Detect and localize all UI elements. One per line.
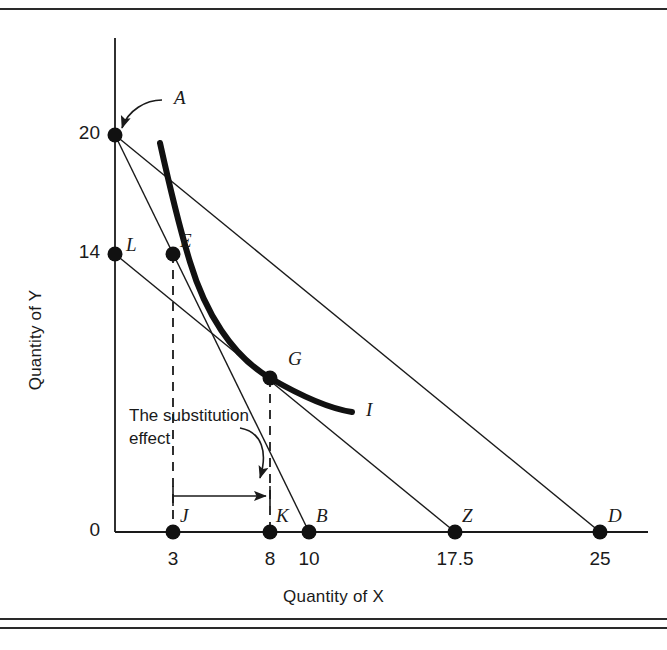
y-tick-0: 0 xyxy=(40,519,100,541)
point-z xyxy=(448,525,463,540)
indifference-curve xyxy=(160,143,352,412)
callout-arrow-a xyxy=(122,100,162,128)
point-b xyxy=(302,525,317,540)
point-e xyxy=(166,247,181,262)
point-l xyxy=(108,247,123,262)
compensated-budget-line-lz xyxy=(115,254,455,532)
budget-line-ad xyxy=(115,135,600,532)
x-tick-25: 25 xyxy=(575,548,625,570)
figure-container: 20 14 0 3 8 10 17.5 25 A L E G I J K B Z… xyxy=(0,0,667,650)
point-g xyxy=(263,371,278,386)
label-point-j: J xyxy=(180,505,188,527)
label-point-z: Z xyxy=(462,505,473,527)
y-tick-14: 14 xyxy=(40,241,100,263)
label-point-k: K xyxy=(276,505,289,527)
label-point-d: D xyxy=(608,505,622,527)
label-curve-i: I xyxy=(366,399,372,421)
x-tick-10: 10 xyxy=(284,548,334,570)
annotation-substitution-effect: The substitution effect xyxy=(129,404,249,450)
label-point-g: G xyxy=(288,348,302,370)
x-tick-3: 3 xyxy=(148,548,198,570)
label-point-b: B xyxy=(316,505,328,527)
label-point-a: A xyxy=(174,87,186,109)
label-point-l: L xyxy=(126,234,137,256)
point-a xyxy=(108,128,123,143)
x-tick-17-5: 17.5 xyxy=(420,548,490,570)
point-j xyxy=(166,525,181,540)
y-tick-20: 20 xyxy=(40,122,100,144)
label-point-e: E xyxy=(180,230,192,252)
y-axis-title: Quantity of Y xyxy=(26,260,46,420)
point-d xyxy=(593,525,608,540)
x-axis-title: Quantity of X xyxy=(0,587,667,607)
